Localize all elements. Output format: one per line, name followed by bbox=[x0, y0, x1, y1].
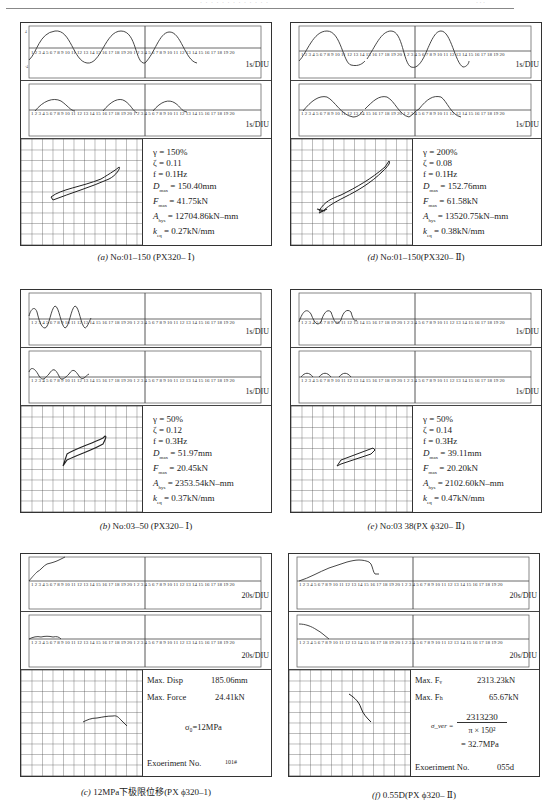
force-trace: 1 2 3 4 5 6 7 8 9 10 11 12 13 14 15 16 1… bbox=[21, 612, 271, 670]
force-trace: 1 2 3 4 5 6 7 8 9 10 11 12 13 14 15 16 1… bbox=[291, 81, 541, 139]
time-scale-label: 1s/DIU bbox=[515, 120, 539, 129]
test-parameters: γ = 150% ζ = 0.11 f = 0.1Hz Dmax = 150.4… bbox=[153, 147, 271, 241]
fraction-denominator: π × 150² bbox=[457, 726, 507, 735]
svg-text:1 2 3 4 5 6 7 8 9 10 11 12 13: 1 2 3 4 5 6 7 8 9 10 11 12 13 14 15 16 1… bbox=[31, 582, 235, 587]
displacement-trace: 1 2 3 4 5 6 7 8 9 10 11 12 13 14 15 16 1… bbox=[291, 23, 541, 81]
vertical-stress: σ₀=12MPa bbox=[185, 722, 222, 732]
svg-text:1 2 3 4 5 6 7 8 9 10 11 12 13: 1 2 3 4 5 6 7 8 9 10 11 12 13 14 15 16 1… bbox=[31, 320, 235, 325]
hysteresis-area-value: Ahys = 2353.54kN–mm bbox=[153, 478, 271, 493]
figure-panel-b: 1 2 3 4 5 6 7 8 9 10 11 12 13 14 15 16 1… bbox=[20, 289, 272, 513]
force-trace: 1 2 3 4 5 6 7 8 9 10 11 12 13 14 15 16 1… bbox=[291, 348, 541, 406]
caption-b: (b) No:03–50 (PX320– Ⅰ) bbox=[20, 521, 272, 531]
hysteresis-grid bbox=[291, 139, 413, 245]
shear-strain: γ = 50% bbox=[153, 414, 271, 425]
fraction-numerator: 2313230 bbox=[457, 712, 507, 723]
frequency: f = 0.3Hz bbox=[423, 436, 541, 447]
hysteresis-area: γ = 50% ζ = 0.12 f = 0.3Hz Dmax = 51.97m… bbox=[21, 406, 271, 512]
damping-ratio: ζ = 0.12 bbox=[153, 425, 271, 436]
figure-panel-e: 1 2 3 4 5 6 7 8 9 10 11 12 13 14 15 16 1… bbox=[290, 289, 542, 513]
shear-strain: γ = 50% bbox=[423, 414, 541, 425]
hysteresis-area: γ = 150% ζ = 0.11 f = 0.1Hz Dmax = 150.4… bbox=[21, 139, 271, 245]
force-trace: 1 2 3 4 5 6 7 8 9 10 11 12 13 14 15 16 1… bbox=[21, 348, 271, 406]
max-disp-value: 185.06mm bbox=[211, 675, 248, 685]
max-fv-value: 2313.23kN bbox=[477, 675, 515, 685]
svg-text:1 2 3 4 5 6 7 8 9 10 11 12 13: 1 2 3 4 5 6 7 8 9 10 11 12 13 14 15 16 1… bbox=[301, 111, 505, 116]
caption-f: (f) 0.55D(PX ϕ320– Ⅱ) bbox=[288, 790, 540, 800]
stress-result: = 32.7MPa bbox=[461, 739, 499, 749]
experiment-label: Exoeriment No. bbox=[415, 762, 469, 772]
experiment-label: Exoeriment No. bbox=[147, 758, 201, 768]
time-scale-label: 1s/DIU bbox=[515, 60, 539, 69]
max-force: Fmax = 41.75kN bbox=[153, 196, 271, 211]
max-force: Fmax = 20.20kN bbox=[423, 463, 541, 478]
caption-d: (d) No:01–150(PX320– Ⅱ) bbox=[290, 252, 542, 262]
equivalent-stiffness: keq = 0.27kN/mm bbox=[153, 226, 271, 241]
svg-text:1 2 3 4 5 6 7 8 9 10 11 12 13: 1 2 3 4 5 6 7 8 9 10 11 12 13 14 15 16 1… bbox=[31, 640, 235, 645]
sigma-label: σ_ver = bbox=[431, 722, 453, 730]
figure-panel-c: 1 2 3 4 5 6 7 8 9 10 11 12 13 14 15 16 1… bbox=[20, 553, 272, 777]
time-scale-label: 20s/DIU bbox=[241, 651, 269, 660]
hysteresis-area: Max. Fᵥ 2313.23kN Max. Fₕ 65.67kN σ_ver … bbox=[289, 670, 539, 776]
time-scale-label: 1s/DIU bbox=[515, 327, 539, 336]
page-number: · · · bbox=[476, 0, 485, 6]
svg-text:1 2 3 4 5 6 7 8 9 10 11 12 13: 1 2 3 4 5 6 7 8 9 10 11 12 13 14 15 16 1… bbox=[299, 640, 503, 645]
caption-c: (c) 12MPa下极限位移(PX ϕ320–1) bbox=[20, 785, 272, 798]
shear-strain: γ = 200% bbox=[423, 147, 541, 158]
experiment-number: 101# bbox=[225, 759, 237, 765]
test-parameters: γ = 50% ζ = 0.12 f = 0.3Hz Dmax = 51.97m… bbox=[153, 414, 271, 508]
running-title: · · · · · · · · · · · · · bbox=[200, 0, 269, 6]
max-displacement: Dmax = 152.76mm bbox=[423, 181, 541, 196]
time-scale-label: 1s/DIU bbox=[245, 327, 269, 336]
max-fh-label: Max. Fₕ bbox=[415, 692, 443, 702]
svg-text:4: 4 bbox=[25, 30, 27, 34]
time-scale-label: 20s/DIU bbox=[241, 591, 269, 600]
svg-text:1 2 3 4 5 6 7 8 9 10 11 12 13: 1 2 3 4 5 6 7 8 9 10 11 12 13 14 15 16 1… bbox=[301, 378, 505, 383]
max-displacement: Dmax = 51.97mm bbox=[153, 448, 271, 463]
hysteresis-area-value: Ahys = 12704.86kN–mm bbox=[153, 211, 271, 226]
shear-strain: γ = 150% bbox=[153, 147, 271, 158]
displacement-trace: 1 2 3 4 5 6 7 8 9 10 11 12 13 14 15 16 1… bbox=[21, 554, 271, 612]
svg-text:1 2 3 4 5 6 7 8 9 10 11 12 13: 1 2 3 4 5 6 7 8 9 10 11 12 13 14 15 16 1… bbox=[301, 52, 505, 57]
test-parameters: γ = 200% ζ = 0.08 f = 0.1Hz Dmax = 152.7… bbox=[423, 147, 541, 241]
time-scale-label: 1s/DIU bbox=[245, 60, 269, 69]
header-rule bbox=[6, 8, 514, 9]
frequency: f = 0.1Hz bbox=[153, 169, 271, 180]
svg-text:1 2 3 4 5 6 7 8 9 10 11 12 13: 1 2 3 4 5 6 7 8 9 10 11 12 13 14 15 16 1… bbox=[299, 582, 503, 587]
svg-text:1 2 3 4 5 6 7 8 9 10 11 12 13: 1 2 3 4 5 6 7 8 9 10 11 12 13 14 15 16 1… bbox=[301, 320, 505, 325]
max-force: Fmax = 61.58kN bbox=[423, 196, 541, 211]
figure-panel-a: 1 2 3 4 5 6 7 8 9 10 11 12 13 14 15 16 1… bbox=[20, 22, 272, 246]
hysteresis-area: γ = 200% ζ = 0.08 f = 0.1Hz Dmax = 152.7… bbox=[291, 139, 541, 245]
svg-text:1 2 3 4 5 6 7 8 9 10 11 12 13: 1 2 3 4 5 6 7 8 9 10 11 12 13 14 15 16 1… bbox=[31, 50, 235, 55]
max-force-label: Max. Force bbox=[147, 692, 186, 702]
hysteresis-area-value: Ahys = 2102.60kN–mm bbox=[423, 478, 541, 493]
figure-panel-f: 1 2 3 4 5 6 7 8 9 10 11 12 13 14 15 16 1… bbox=[288, 553, 540, 777]
figure-panel-d: 1 2 3 4 5 6 7 8 9 10 11 12 13 14 15 16 1… bbox=[290, 22, 542, 246]
time-scale-label: 1s/DIU bbox=[245, 120, 269, 129]
hysteresis-grid bbox=[21, 670, 143, 776]
displacement-trace: 1 2 3 4 5 6 7 8 9 10 11 12 13 14 15 16 1… bbox=[291, 290, 541, 348]
displacement-trace: 1 2 3 4 5 6 7 8 9 10 11 12 13 14 15 16 1… bbox=[21, 23, 271, 81]
max-force-value: 24.41kN bbox=[215, 692, 245, 702]
damping-ratio: ζ = 0.08 bbox=[423, 158, 541, 169]
hysteresis-area: γ = 50% ζ = 0.14 f = 0.3Hz Dmax = 39.11m… bbox=[291, 406, 541, 512]
equivalent-stiffness: keq = 0.37kN/mm bbox=[153, 493, 271, 508]
caption-e: (e) No:03 38(PX ϕ320– Ⅱ) bbox=[290, 521, 542, 531]
time-scale-label: 20s/DIU bbox=[509, 651, 537, 660]
time-scale-label: 1s/DIU bbox=[515, 387, 539, 396]
hysteresis-area: Max. Disp 185.06mm Max. Force 24.41kN σ₀… bbox=[21, 670, 271, 776]
hysteresis-grid bbox=[289, 670, 411, 776]
force-trace: 1 2 3 4 5 6 7 8 9 10 11 12 13 14 15 16 1… bbox=[289, 612, 539, 670]
equivalent-stiffness: keq = 0.38kN/mm bbox=[423, 226, 541, 241]
hysteresis-grid bbox=[21, 406, 143, 512]
max-displacement: Dmax = 39.11mm bbox=[423, 448, 541, 463]
time-scale-label: 1s/DIU bbox=[245, 387, 269, 396]
time-scale-label: 20s/DIU bbox=[509, 591, 537, 600]
trace-plot: 1 2 3 4 5 6 7 8 9 10 11 12 13 14 15 16 1… bbox=[21, 81, 271, 139]
svg-text:1 2 3 4 5 6 7 8 9 10 11 12 13: 1 2 3 4 5 6 7 8 9 10 11 12 13 14 15 16 1… bbox=[31, 111, 235, 116]
max-fh-value: 65.67kN bbox=[489, 692, 519, 702]
damping-ratio: ζ = 0.14 bbox=[423, 425, 541, 436]
trace-plot: 1 2 3 4 5 6 7 8 9 10 11 12 13 14 15 16 1… bbox=[21, 23, 271, 81]
displacement-trace: 1 2 3 4 5 6 7 8 9 10 11 12 13 14 15 16 1… bbox=[289, 554, 539, 612]
frequency: f = 0.1Hz bbox=[423, 169, 541, 180]
damping-ratio: ζ = 0.11 bbox=[153, 158, 271, 169]
